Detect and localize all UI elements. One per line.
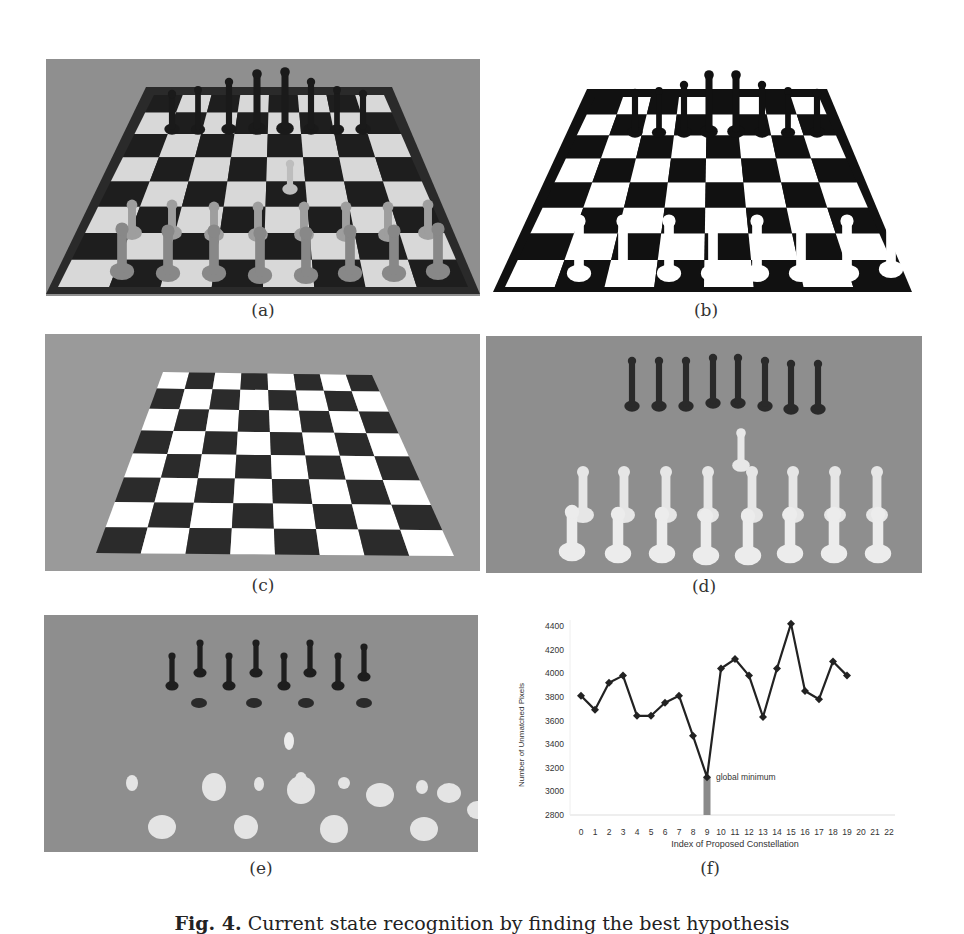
x-axis-label: Index of Proposed Constellation	[671, 839, 799, 849]
panel-b-binarized	[487, 59, 925, 296]
data-point-marker	[689, 732, 697, 740]
data-point-marker	[605, 679, 613, 687]
x-tick-label: 3	[621, 827, 626, 837]
data-line	[581, 624, 847, 778]
x-tick-label: 6	[663, 827, 668, 837]
x-tick-label: 2	[607, 827, 612, 837]
x-tick-label: 20	[856, 827, 866, 837]
panel-f-label: (f)	[680, 858, 740, 878]
y-tick-label: 2800	[545, 810, 564, 820]
x-tick-label: 19	[842, 827, 852, 837]
figure-caption: Fig. 4. Current state recognition by fin…	[0, 912, 964, 934]
x-tick-label: 18	[828, 827, 838, 837]
data-point-marker	[633, 712, 641, 720]
x-tick-label: 8	[691, 827, 696, 837]
x-tick-label: 16	[800, 827, 810, 837]
y-tick-label: 4400	[545, 621, 564, 631]
chessboard-photo	[46, 59, 480, 296]
caption-text: Current state recognition by finding the…	[248, 912, 790, 934]
panel-c-model	[45, 334, 480, 571]
caption-label: Fig. 4.	[175, 912, 242, 934]
y-tick-label: 4200	[545, 645, 564, 655]
difference-image	[44, 615, 478, 852]
data-point-marker	[675, 692, 683, 700]
model-chessboard	[45, 334, 480, 571]
y-tick-label: 3400	[545, 739, 564, 749]
data-point-marker	[619, 672, 627, 680]
x-tick-label: 0	[579, 827, 584, 837]
panel-d-label: (d)	[674, 576, 734, 596]
x-tick-label: 7	[677, 827, 682, 837]
chart-series: global minimum	[577, 620, 851, 815]
x-tick-label: 10	[716, 827, 726, 837]
x-tick-label: 17	[814, 827, 824, 837]
panel-e-label: (e)	[231, 858, 291, 878]
panel-b-label: (b)	[676, 300, 736, 320]
global-minimum-bar	[704, 777, 711, 815]
data-point-marker	[759, 713, 767, 721]
x-tick-label: 1	[593, 827, 598, 837]
x-tick-label: 21	[870, 827, 880, 837]
y-tick-label: 4000	[545, 668, 564, 678]
y-axis-label: Number of Unmatched Pixels	[517, 683, 526, 787]
hypothesis-render	[486, 336, 922, 573]
annotation-label: global minimum	[716, 772, 776, 782]
data-point-marker	[773, 665, 781, 673]
y-tick-label: 3200	[545, 763, 564, 773]
x-tick-label: 4	[635, 827, 640, 837]
chart-axes: 4400420040003800360034003200300028000123…	[545, 620, 895, 837]
panel-c-label: (c)	[233, 575, 293, 595]
binarized-image	[487, 59, 925, 296]
line-chart: 4400420040003800360034003200300028000123…	[500, 610, 920, 860]
y-tick-label: 3600	[545, 716, 564, 726]
data-point-marker	[787, 620, 795, 628]
x-tick-label: 13	[758, 827, 768, 837]
panel-f-chart: 4400420040003800360034003200300028000123…	[500, 610, 920, 860]
x-tick-label: 5	[649, 827, 654, 837]
panel-d-hypothesis	[486, 336, 922, 573]
y-tick-label: 3800	[545, 692, 564, 702]
x-tick-label: 14	[772, 827, 782, 837]
y-tick-label: 3000	[545, 786, 564, 796]
panel-e-difference	[44, 615, 478, 852]
x-tick-label: 9	[705, 827, 710, 837]
x-tick-label: 11	[731, 827, 740, 837]
panel-a-label: (a)	[233, 300, 293, 320]
x-tick-label: 22	[884, 827, 894, 837]
x-tick-label: 15	[786, 827, 796, 837]
panel-a-photo	[46, 59, 480, 296]
x-tick-label: 12	[744, 827, 754, 837]
